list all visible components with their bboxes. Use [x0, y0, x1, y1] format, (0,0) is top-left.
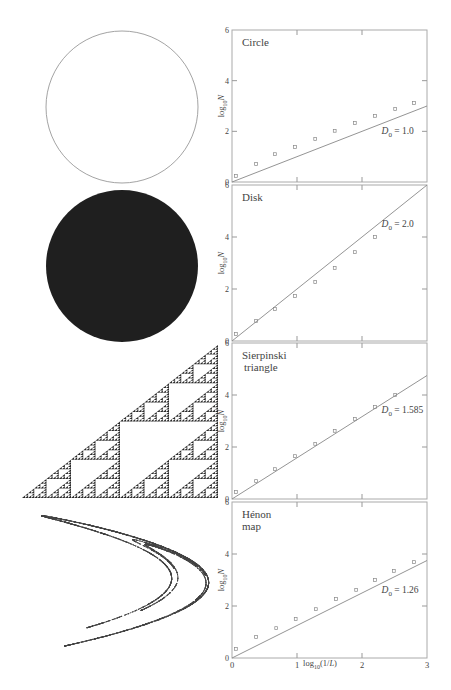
x-tick-label: 1 [295, 660, 299, 670]
data-point [235, 648, 238, 651]
data-point [333, 267, 336, 270]
x-tick-label: 0 [230, 660, 234, 670]
x-tick-label: 2 [360, 660, 364, 670]
plot-panel-3: 0246log10NSierpinskitriangleD0 = 1.585 [216, 339, 427, 504]
y-axis-label: log10N [216, 250, 228, 274]
data-point [333, 129, 336, 132]
panel-title: Sierpinski [242, 349, 287, 361]
data-point [294, 295, 297, 298]
data-point [314, 138, 317, 141]
data-point [353, 418, 356, 421]
data-point [275, 627, 278, 630]
y-axis-label: log10N [216, 567, 228, 591]
data-point [413, 102, 416, 105]
data-point [374, 236, 377, 239]
y-tick-label: 4 [225, 233, 229, 242]
data-point [392, 570, 395, 573]
data-point [374, 579, 377, 582]
y-tick-label: 6 [225, 339, 229, 348]
fractal-dimension-figure: 0246log10NCircleD0 = 1.00246log10NDiskD0… [0, 0, 451, 690]
y-tick-label: 6 [225, 498, 229, 507]
data-point [314, 608, 317, 611]
x-axis-label: log10(1/L) [303, 658, 337, 670]
data-point [255, 636, 258, 639]
y-tick-label: 6 [225, 26, 229, 35]
data-point [413, 561, 416, 564]
data-point [355, 588, 358, 591]
plot-frame [232, 502, 427, 658]
data-point [235, 333, 238, 336]
plot-frame [232, 30, 427, 182]
data-point [314, 442, 317, 445]
fit-line [232, 185, 427, 341]
data-point [374, 114, 377, 117]
data-point [314, 281, 317, 284]
henon-map-shape [41, 515, 209, 646]
sierpinski-triangle-shape [22, 345, 218, 498]
data-point [294, 455, 297, 458]
panel-title: triangle [244, 361, 278, 373]
data-point [235, 491, 238, 494]
shape-illustrations [22, 31, 218, 646]
data-point [274, 153, 277, 156]
panel-title: Circle [242, 36, 269, 48]
data-point [394, 108, 397, 111]
circle-shape [46, 31, 198, 183]
y-tick-label: 4 [225, 550, 229, 559]
fit-line [232, 106, 427, 182]
y-tick-label: 2 [225, 602, 229, 611]
data-point [255, 480, 258, 483]
panel-title: Hénon [242, 508, 272, 520]
y-tick-label: 4 [225, 391, 229, 400]
data-point [255, 163, 258, 166]
fit-line [232, 561, 427, 659]
fit-line [232, 376, 427, 500]
data-point [353, 122, 356, 125]
data-point [353, 251, 356, 254]
disk-shape [46, 190, 198, 342]
dimension-label: D0 = 1.26 [381, 585, 419, 598]
log-log-plots: 0246log10NCircleD0 = 1.00246log10NDiskD0… [216, 26, 429, 670]
y-tick-label: 2 [225, 127, 229, 136]
plot-panel-2: 0246log10NDiskD0 = 2.0 [216, 181, 427, 346]
x-tick-label: 3 [425, 660, 429, 670]
dimension-label: D0 = 1.0 [381, 126, 415, 139]
y-tick-label: 2 [225, 443, 229, 452]
y-axis-label: log10N [216, 93, 228, 117]
y-tick-label: 4 [225, 77, 229, 86]
panel-title: Disk [242, 191, 263, 203]
y-tick-label: 0 [225, 654, 229, 663]
dimension-label: D0 = 1.585 [381, 405, 424, 418]
data-point [294, 146, 297, 149]
panel-title: map [242, 520, 261, 532]
dimension-label: D0 = 2.0 [381, 219, 415, 232]
y-tick-label: 2 [225, 285, 229, 294]
plot-panel-1: 0246log10NCircleD0 = 1.0 [216, 26, 427, 187]
data-point [335, 598, 338, 601]
data-point [333, 429, 336, 432]
data-point [235, 175, 238, 178]
data-point [294, 618, 297, 621]
data-point [274, 468, 277, 471]
plot-panel-4: 0246log10NHénonmapD0 = 1.26 [216, 498, 427, 663]
y-tick-label: 6 [225, 181, 229, 190]
